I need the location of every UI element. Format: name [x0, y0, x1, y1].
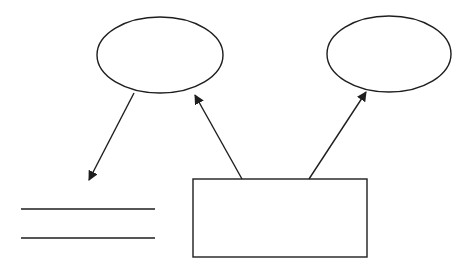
diagram-canvas: [0, 0, 471, 269]
right-ellipse-node: [327, 16, 451, 92]
arrow-box-to-right-ellipse: [309, 92, 366, 179]
arrow-left-ellipse-to-datastore: [89, 93, 134, 180]
rectangle-node: [193, 179, 367, 257]
arrow-box-to-left-ellipse: [195, 95, 242, 179]
left-ellipse-node: [97, 17, 223, 93]
diagram-svg: [0, 0, 471, 269]
